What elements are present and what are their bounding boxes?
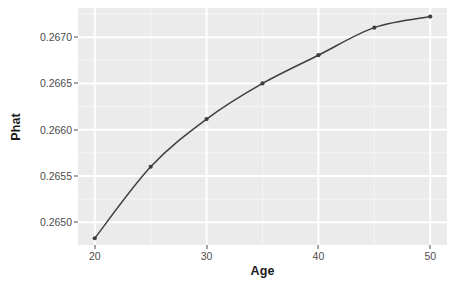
x-axis-tick-label: 30: [201, 250, 213, 262]
data-point: [428, 15, 432, 19]
chart-plot-area: Phat 0.26500.26550.26600.26650.2670 2030…: [0, 0, 455, 288]
x-axis-tick-mark: [206, 245, 207, 249]
plot-canvas: [78, 8, 447, 245]
x-axis-tick-label: 40: [313, 250, 325, 262]
y-axis-tick-label: 0.2660: [24, 124, 72, 136]
y-axis-tick-label: 0.2655: [24, 170, 72, 182]
data-point: [204, 117, 208, 121]
data-point: [93, 236, 97, 240]
data-point: [316, 53, 320, 57]
x-axis-tick-label: 20: [89, 250, 101, 262]
x-axis-title-label: Age: [251, 264, 275, 278]
x-axis-tick-mark: [430, 245, 431, 249]
plot-panel: [78, 8, 447, 245]
y-axis-tick-label: 0.2665: [24, 77, 72, 89]
x-axis-tick-mark: [318, 245, 319, 249]
x-axis-tick-label: 50: [424, 250, 436, 262]
minor-gridlines: [78, 8, 447, 245]
data-point: [260, 81, 264, 85]
x-axis-title: Age: [78, 264, 447, 278]
data-point: [372, 26, 376, 30]
y-axis-tick-label: 0.2670: [24, 31, 72, 43]
y-axis-tick-labels: 0.26500.26550.26600.26650.2670: [22, 0, 72, 288]
y-axis-title-label: Phat: [9, 113, 23, 141]
data-point: [149, 165, 153, 169]
x-axis-tick-mark: [94, 245, 95, 249]
y-axis-tick-label: 0.2650: [24, 216, 72, 228]
